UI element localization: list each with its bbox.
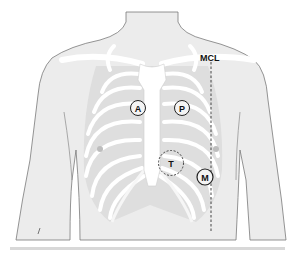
pulmonic-label: P	[179, 104, 185, 114]
tricuspid-label: T	[168, 159, 174, 169]
mitral-label: M	[201, 173, 209, 183]
caption-strip	[10, 244, 285, 252]
mcl-label: MCL	[200, 53, 220, 63]
right-nipple	[213, 146, 219, 152]
aortic-label: A	[135, 104, 142, 114]
mitral-marker: M	[197, 169, 213, 185]
left-nipple	[97, 146, 103, 152]
pulmonic-marker: P	[175, 101, 190, 116]
aortic-marker: A	[131, 101, 146, 116]
chest-auscultation-diagram: A P T M MCL	[0, 0, 293, 254]
